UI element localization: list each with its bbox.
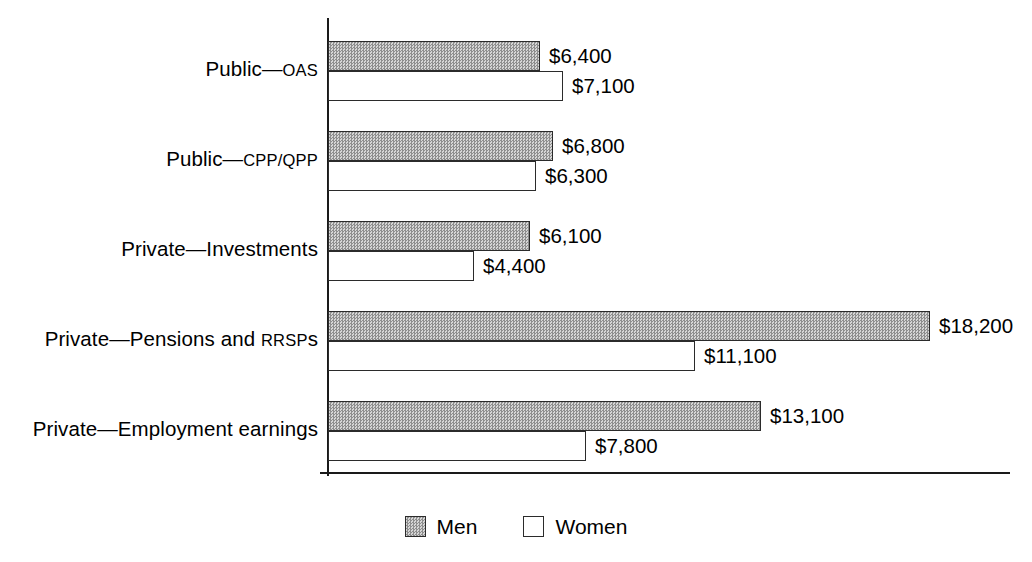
bar-value-men: $6,400 (549, 46, 612, 67)
bar-value-women: $6,300 (545, 166, 608, 187)
bar-chart-figure: Public—OAS $6,400 $7,100 Public—CPP/QPP … (0, 0, 1032, 562)
bar-men[interactable] (328, 311, 930, 341)
bar-value-men: $6,800 (562, 136, 625, 157)
category-label: Private—Pensions and RRSPs (0, 329, 318, 350)
category-label: Public—CPP/QPP (0, 149, 318, 170)
bar-value-women: $7,100 (572, 76, 635, 97)
category-label: Private—Employment earnings (0, 419, 318, 440)
legend-label-women: Women (555, 516, 627, 537)
bar-value-women: $11,100 (704, 346, 777, 367)
chart-legend: Men Women (0, 516, 1032, 537)
category-label-lead: Private—Employment earnings (33, 417, 318, 440)
legend-item-men[interactable]: Men (405, 516, 478, 537)
legend-item-women[interactable]: Women (523, 516, 627, 537)
legend-swatch-women-icon (523, 516, 544, 537)
bar-women[interactable] (328, 431, 586, 461)
plot-area: Public—OAS $6,400 $7,100 Public—CPP/QPP … (0, 0, 1032, 562)
bar-value-men: $18,200 (939, 316, 1013, 337)
category-label-smallcaps: CPP/QPP (243, 151, 318, 169)
x-axis-line (320, 472, 1010, 474)
bar-women[interactable] (328, 71, 563, 101)
category-label-lead: Public— (206, 57, 283, 80)
category-label-lead: Public— (166, 147, 243, 170)
legend-swatch-men-icon (405, 516, 426, 537)
bar-men[interactable] (328, 221, 530, 251)
bar-women[interactable] (328, 161, 536, 191)
category-label: Private—Investments (0, 239, 318, 260)
bar-value-men: $6,100 (539, 226, 602, 247)
category-label-lead: Private—Investments (121, 237, 318, 260)
bar-men[interactable] (328, 41, 540, 71)
bar-value-women: $7,800 (595, 436, 658, 457)
bar-women[interactable] (328, 251, 474, 281)
category-label-smallcaps: RRSP (261, 331, 308, 349)
bar-value-men: $13,100 (770, 406, 844, 427)
category-label-smallcaps: OAS (283, 61, 318, 79)
bar-men[interactable] (328, 131, 553, 161)
legend-label-men: Men (437, 516, 478, 537)
bar-value-women: $4,400 (483, 256, 546, 277)
category-label-lead: Private—Pensions and (45, 327, 261, 350)
bar-women[interactable] (328, 341, 695, 371)
bar-men[interactable] (328, 401, 761, 431)
category-label-tail: s (308, 327, 318, 350)
category-label: Public—OAS (0, 59, 318, 80)
